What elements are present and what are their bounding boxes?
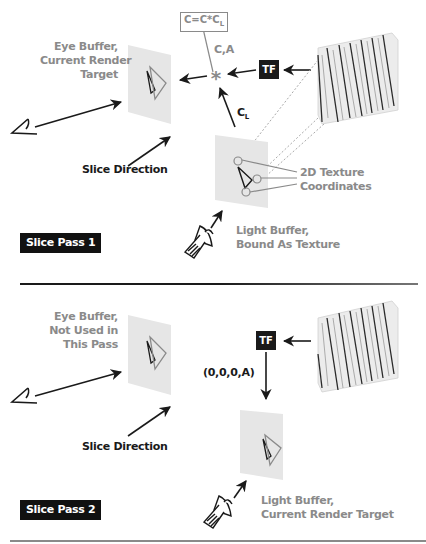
slice-direction-label: Slice Direction — [82, 440, 168, 454]
eye-buffer-plane — [128, 315, 171, 395]
eye-buffer-label: Eye Buffer, Current Render Target — [40, 40, 118, 82]
light-color-label: CL — [237, 106, 249, 124]
eye-buffer-label: Eye Buffer, Not Used in This Pass — [40, 310, 118, 352]
slice-pass-2-badge: Slice Pass 2 — [20, 500, 101, 520]
multiply-operator-icon: * — [211, 66, 222, 90]
eye-icon — [12, 388, 37, 403]
slice-pass-1-badge: Slice Pass 1 — [20, 233, 101, 253]
spotlight-icon — [185, 226, 213, 258]
texcoord-label: 2D Texture Coordinates — [300, 166, 371, 194]
output-value-label: (0,0,0,A) — [203, 366, 254, 380]
volume-slices-icon — [318, 301, 398, 392]
light-buffer-label: Light Buffer, Current Render Target — [261, 494, 394, 522]
bottom-divider — [10, 540, 426, 542]
light-buffer-label: Light Buffer, Bound As Texture — [236, 224, 340, 252]
light-buffer-plane — [240, 410, 283, 480]
blend-equation-sub: L — [220, 20, 224, 28]
transfer-function-box: TF — [256, 331, 276, 350]
light-buffer-plane — [215, 135, 297, 208]
spotlight-icon — [204, 496, 232, 528]
blend-equation-box: C=C*CL — [180, 12, 228, 32]
color-alpha-label: C,A — [214, 43, 234, 57]
eye-buffer-plane — [128, 45, 171, 124]
volume-slices-icon — [318, 33, 398, 124]
transfer-function-box: TF — [259, 60, 279, 79]
panel-divider — [20, 283, 418, 285]
eye-icon — [12, 119, 37, 134]
blend-equation: C=C*C — [184, 14, 220, 25]
slice-direction-label: Slice Direction — [82, 163, 168, 177]
